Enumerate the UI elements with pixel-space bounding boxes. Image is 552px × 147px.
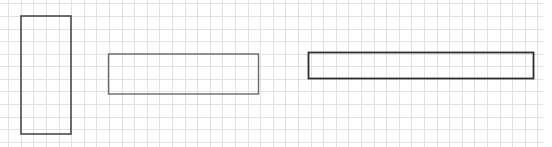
grid-lines	[0, 0, 543, 147]
rectangles	[21, 16, 534, 134]
rect-long	[309, 53, 534, 79]
grid-diagram	[0, 0, 552, 147]
